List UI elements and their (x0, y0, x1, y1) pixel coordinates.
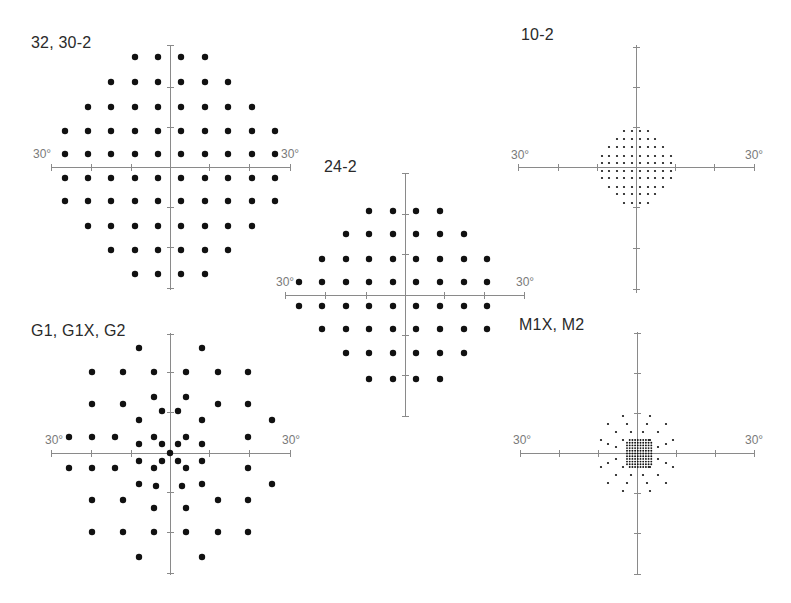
test-point (647, 186, 649, 188)
test-point (225, 79, 231, 85)
panel-p10 (518, 45, 755, 293)
test-point (639, 130, 641, 132)
test-point (245, 369, 251, 375)
test-point (639, 146, 641, 148)
test-point (199, 481, 205, 487)
test-point (390, 326, 396, 332)
test-point (249, 223, 255, 229)
test-point (413, 376, 419, 382)
test-point (136, 441, 142, 447)
test-point (366, 231, 372, 237)
test-point (151, 434, 157, 440)
test-point (647, 170, 649, 172)
test-point (654, 186, 656, 188)
test-point-dense (642, 450, 644, 452)
test-point (199, 458, 205, 464)
test-point (623, 162, 625, 164)
test-point (132, 198, 138, 204)
test-point (623, 193, 625, 195)
test-point-dense (648, 450, 650, 452)
test-point (183, 505, 189, 511)
test-point-dense (640, 442, 642, 444)
test-point (175, 408, 181, 414)
test-point (639, 202, 641, 204)
test-point (343, 350, 349, 356)
test-point-dense (642, 453, 644, 455)
test-point-dense (650, 458, 652, 460)
test-point (89, 529, 95, 535)
panel-title-m1x-m2: M1X, M2 (519, 316, 584, 334)
test-point (66, 434, 72, 440)
test-point-dense (631, 458, 633, 460)
test-point (108, 79, 114, 85)
test-point (622, 439, 624, 441)
test-point (89, 434, 95, 440)
test-point (647, 162, 649, 164)
test-point (215, 369, 221, 375)
test-point-dense (642, 447, 644, 449)
test-point-dense (634, 455, 636, 457)
test-point-dense (626, 458, 628, 460)
test-point (120, 529, 126, 535)
test-point-dense (640, 453, 642, 455)
panel-title-g1-g1x-g2: G1, G1X, G2 (31, 322, 126, 340)
test-point (631, 186, 633, 188)
test-point (626, 423, 628, 425)
test-point (272, 151, 278, 157)
test-point (616, 177, 618, 179)
test-point (85, 151, 91, 157)
test-point (461, 231, 467, 237)
test-point (225, 198, 231, 204)
test-point (151, 505, 157, 511)
test-point (413, 279, 419, 285)
test-point-dense (642, 463, 644, 465)
test-point (272, 198, 278, 204)
test-point (366, 208, 372, 214)
test-point-dense (631, 450, 633, 452)
test-point-dense (634, 444, 636, 446)
test-point-dense (645, 466, 647, 468)
test-point (413, 231, 419, 237)
test-point (607, 482, 609, 484)
test-point-dense (650, 444, 652, 446)
test-point-dense (637, 455, 639, 457)
test-point-dense (650, 442, 652, 444)
test-point (631, 202, 633, 204)
test-point-dense (629, 455, 631, 457)
test-point (319, 279, 325, 285)
test-point (662, 146, 664, 148)
test-point-dense (645, 455, 647, 457)
test-point (461, 350, 467, 356)
test-point (616, 186, 618, 188)
test-point-dense (640, 463, 642, 465)
test-point (616, 146, 618, 148)
test-point (390, 256, 396, 262)
test-point (183, 369, 189, 375)
test-point (437, 279, 443, 285)
test-point (461, 303, 467, 309)
axis-label-32-left: 30° (33, 147, 51, 161)
test-point (672, 466, 674, 468)
test-point (343, 231, 349, 237)
test-point-dense (642, 455, 644, 457)
test-point (178, 247, 184, 253)
test-point (615, 474, 617, 476)
test-point (390, 208, 396, 214)
test-point (631, 138, 633, 140)
test-point (647, 202, 649, 204)
test-point-dense (645, 439, 647, 441)
test-point (647, 130, 649, 132)
test-point (366, 303, 372, 309)
test-point-dense (634, 453, 636, 455)
test-point (437, 326, 443, 332)
test-point (136, 458, 142, 464)
test-point-dense (631, 439, 633, 441)
panel-p32 (51, 45, 291, 290)
test-point (630, 474, 632, 476)
test-point (665, 423, 667, 425)
test-point (132, 79, 138, 85)
test-point (202, 151, 208, 157)
test-point (62, 128, 68, 134)
test-point-dense (648, 439, 650, 441)
test-point (120, 369, 126, 375)
